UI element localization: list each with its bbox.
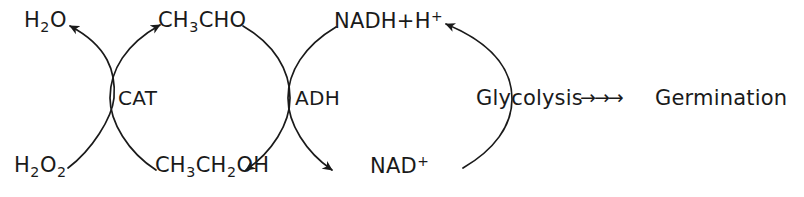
h2o2-subscript-2a: 2	[30, 164, 40, 180]
water-formula-part2: O	[50, 8, 67, 32]
water-formula-part1: H	[24, 8, 40, 32]
nadh-superscript-plus: +	[431, 8, 443, 24]
metabolite-nadh: NADH+H+	[334, 10, 443, 32]
ethanol-part2: CH	[196, 153, 227, 177]
nad-text: NAD	[370, 154, 417, 178]
pathway-label-glycolysis: Glycolysis	[476, 88, 583, 109]
nad-superscript-plus: +	[417, 153, 429, 169]
ethanol-part3: OH	[236, 153, 269, 177]
enzyme-label-catalase: CAT	[118, 88, 157, 108]
pathway-label-germination: Germination	[655, 88, 787, 109]
acetaldehyde-subscript-3: 3	[189, 19, 199, 35]
metabolite-water: H2O	[24, 10, 67, 34]
h2o2-part1: H	[14, 153, 30, 177]
metabolite-acetaldehyde: CH3CHO	[158, 10, 246, 34]
metabolite-hydrogen-peroxide: H2O2	[14, 155, 66, 179]
acetaldehyde-part1: CH	[158, 8, 189, 32]
h2o2-part2: O	[40, 153, 57, 177]
arc-h2o2-to-h2o	[68, 26, 114, 168]
ethanol-part1: CH	[155, 153, 186, 177]
pathway-arrows-icon: →→→	[580, 88, 622, 107]
water-subscript-2: 2	[40, 19, 50, 35]
arc-acetaldehyde-to-ethanol	[243, 26, 290, 170]
h2o2-subscript-2b: 2	[57, 164, 67, 180]
acetaldehyde-part2: CHO	[199, 8, 247, 32]
enzyme-label-adh: ADH	[295, 88, 340, 108]
pathway-diagram: H2O H2O2 CH3CHO CH3CH2OH NADH+H+ NAD+ CA…	[0, 0, 804, 197]
metabolite-nad-plus: NAD+	[370, 155, 429, 177]
metabolite-ethanol: CH3CH2OH	[155, 155, 269, 179]
ethanol-subscript-2: 2	[227, 164, 237, 180]
ethanol-subscript-3: 3	[186, 164, 196, 180]
nadh-text: NADH+H	[334, 9, 431, 33]
